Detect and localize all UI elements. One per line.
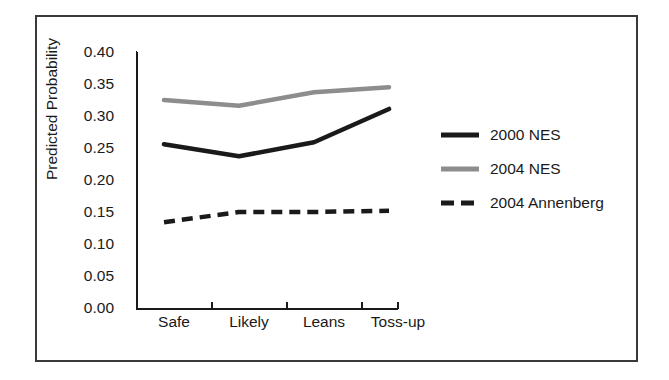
legend-label: 2004 Annenberg [490,194,604,212]
x-tick-label-safe: Safe [158,313,190,331]
x-tick-label-toss-up: Toss-up [371,313,425,331]
y-tick-label: 0.30 [66,108,114,124]
y-axis-tick-labels: 0.40 0.35 0.30 0.25 0.20 0.15 0.10 0.05 … [56,0,114,380]
y-tick-label: 0.20 [66,172,114,188]
chart-legend: 2000 NES 2004 NES 2004 Annenberg [440,118,640,220]
legend-label: 2000 NES [490,126,561,144]
legend-label: 2004 NES [490,160,561,178]
y-tick-label: 0.10 [66,236,114,252]
legend-swatch-solid-gray-icon [440,162,480,176]
x-axis-tick-labels: Safe Likely Leans Toss-up [130,313,420,343]
y-tick-label: 0.25 [66,140,114,156]
y-tick-label: 0.00 [66,300,114,316]
plot-area [136,44,406,316]
y-tick-label: 0.40 [66,44,114,60]
legend-item-2004-annenberg: 2004 Annenberg [440,186,640,220]
series-2004-nes [164,87,389,106]
series-2000-nes [164,109,389,156]
y-tick-label: 0.35 [66,76,114,92]
legend-swatch-solid-black-icon [440,128,480,142]
y-tick-label: 0.15 [66,204,114,220]
series-2004-annenberg [164,211,389,223]
x-tick-label-leans: Leans [303,313,345,331]
chart-figure: Predicted Probability 0.40 0.35 0.30 0.2… [0,0,669,380]
legend-swatch-dashed-black-icon [440,196,480,210]
y-tick-label: 0.05 [66,268,114,284]
legend-item-2000-nes: 2000 NES [440,118,640,152]
legend-item-2004-nes: 2004 NES [440,152,640,186]
x-tick-label-likely: Likely [229,313,269,331]
